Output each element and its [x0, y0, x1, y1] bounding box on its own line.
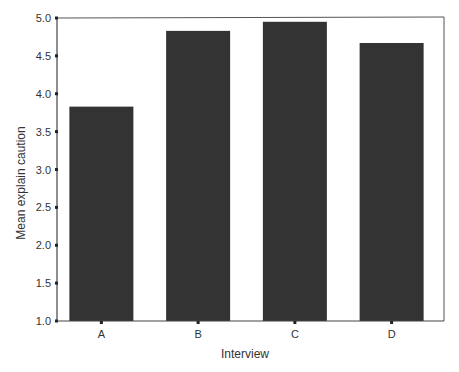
x-tick-label-d: D: [388, 328, 396, 340]
y-tick-mark: [55, 206, 58, 209]
bar-c: [263, 22, 327, 321]
y-tick-mark: [55, 130, 58, 133]
x-tick-mark: [390, 321, 393, 324]
y-tick-label: 1.0: [36, 315, 51, 327]
y-tick-mark: [55, 244, 58, 247]
y-tick-label: 4.0: [36, 88, 51, 100]
x-tick-label-a: A: [98, 328, 106, 340]
bar-d: [360, 43, 424, 321]
y-tick-mark: [55, 282, 58, 285]
y-tick-mark: [55, 92, 58, 95]
y-tick-mark: [55, 54, 58, 57]
x-axis: ABCD: [57, 321, 444, 340]
y-tick-label: 5.0: [36, 12, 51, 24]
y-tick-label: 2.5: [36, 201, 51, 213]
y-tick-mark: [55, 168, 58, 171]
y-tick-label: 3.0: [36, 164, 51, 176]
frame-top: [57, 17, 444, 18]
x-tick-mark: [100, 321, 103, 324]
y-tick-label: 1.5: [36, 277, 51, 289]
y-tick-label: 4.5: [36, 50, 51, 62]
bar-chart: 1.01.52.02.53.03.54.04.55.0 ABCD Intervi…: [0, 0, 459, 372]
bars: [69, 22, 423, 321]
y-tick-label: 3.5: [36, 126, 51, 138]
y-axis: 1.01.52.02.53.03.54.04.55.0: [36, 12, 58, 327]
bar-b: [166, 31, 230, 321]
x-axis-title: Interview: [221, 347, 269, 361]
y-tick-label: 2.0: [36, 239, 51, 251]
y-tick-mark: [55, 17, 58, 20]
y-axis-title: Mean explain caution: [14, 126, 28, 239]
x-tick-label-c: C: [291, 328, 299, 340]
x-tick-label-b: B: [194, 328, 201, 340]
x-tick-mark: [197, 321, 200, 324]
x-tick-mark: [293, 321, 296, 324]
bar-a: [69, 107, 133, 321]
